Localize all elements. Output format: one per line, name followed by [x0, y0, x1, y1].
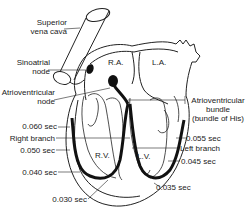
label-left-ventricle: L.V. — [137, 152, 151, 161]
label-right-atrium: R.A. — [108, 58, 124, 67]
label-line: Superior — [22, 18, 67, 27]
label-line: Atrioventricular — [0, 88, 55, 97]
label-superior-vena-cava: Superior vena cava — [22, 18, 67, 36]
sinoatrial-node — [85, 63, 95, 75]
label-av-bundle: Atrioventricular bundle (bundle of His) — [186, 96, 250, 123]
timing-right-050: 0.050 sec — [8, 146, 55, 155]
timing-right-030: 0.030 sec — [40, 195, 87, 204]
label-right-ventricle: R.V. — [95, 151, 110, 160]
label-line: Atrioventricular — [186, 96, 250, 105]
label-atrioventricular-node: Atrioventricular node — [0, 88, 55, 106]
timing-left-035: 0.035 sec — [156, 183, 191, 192]
timing-left-055: 0.055 sec — [186, 134, 221, 143]
label-line: (bundle of His) — [186, 114, 250, 123]
label-line: node — [0, 97, 55, 106]
label-left-branch: Left branch — [180, 144, 220, 153]
label-line: bundle — [186, 105, 250, 114]
label-left-atrium: L.A. — [152, 58, 166, 67]
label-line: vena cava — [22, 27, 67, 36]
timing-right-060: 0.060 sec — [10, 122, 57, 131]
label-sinoatrial-node: Sinoatrial node — [10, 58, 50, 76]
label-right-branch: Right branch — [0, 134, 55, 143]
timing-left-045: 0.045 sec — [181, 157, 216, 166]
label-line: node — [10, 67, 50, 76]
timing-right-040: 0.040 sec — [10, 168, 57, 177]
label-line: Sinoatrial — [10, 58, 50, 67]
